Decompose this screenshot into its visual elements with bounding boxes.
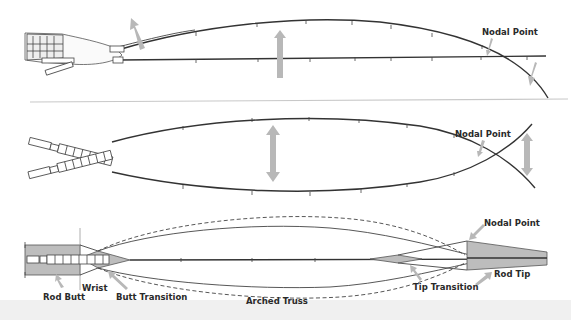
- middle-rod-guides: [183, 117, 454, 196]
- rod-butt-label: Rod Butt: [43, 292, 85, 302]
- middle-double-arrow-icon: [266, 125, 280, 182]
- arched-truss-label: Arched Truss: [246, 296, 308, 306]
- butt-transition-label: Butt Transition: [116, 292, 187, 302]
- bottom-nodal-point-label: Nodal Point: [484, 218, 540, 228]
- tip-transition-pointer-icon: [410, 265, 422, 281]
- rod-flex-diagram: Nodal Point: [0, 0, 571, 320]
- tip-double-arrow-icon: [521, 133, 533, 176]
- wrist-label: Wrist: [82, 283, 107, 293]
- crossed-handles: [28, 136, 113, 179]
- straight-rod: [120, 56, 546, 60]
- middle-nodal-point-label: Nodal Point: [455, 129, 511, 139]
- tip-down-arrow-icon: [528, 62, 537, 86]
- rod-tip-label: Rod Tip: [494, 269, 530, 279]
- flexed-rod-guides: [196, 20, 482, 49]
- nodal-point-pointer-icon: [486, 38, 493, 56]
- panel-top-casting-flex: Nodal Point: [25, 18, 568, 102]
- top-nodal-point-label: Nodal Point: [482, 27, 538, 37]
- panel-bottom-arched-truss: Nodal Point Rod Butt Wrist Butt Transiti…: [0, 217, 571, 320]
- truss-upper-dashed: [98, 217, 465, 255]
- butt-handle-detail: [27, 255, 109, 264]
- rod-tip-taper: [467, 241, 547, 270]
- tip-nodal-pointer-icon: [469, 224, 485, 240]
- casting-hand: [25, 33, 124, 75]
- tip-transition-label: Tip Transition: [413, 282, 478, 292]
- truss-upper-solid: [98, 226, 470, 255]
- middle-nodal-pointer-icon: [477, 140, 485, 157]
- ground-line: [30, 99, 568, 102]
- vertical-double-arrow-icon: [274, 30, 286, 78]
- flexed-rod-inner: [118, 30, 195, 47]
- tip-transition-diamond: [370, 255, 422, 263]
- panel-middle-oscillation: Nodal Point: [28, 117, 535, 196]
- rod-butt-pointer-icon: [55, 274, 64, 288]
